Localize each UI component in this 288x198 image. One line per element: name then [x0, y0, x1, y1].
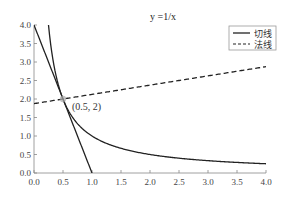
x-tick-label: 2.5 — [173, 177, 185, 187]
x-tick-label: 4.0 — [260, 177, 272, 187]
y-tick-label: 1.5 — [20, 113, 32, 123]
legend-label-normal: 法线 — [254, 39, 272, 50]
y-tick-label: 0.5 — [20, 150, 32, 160]
legend: 切线 法线 — [229, 26, 276, 50]
x-tick-label: 0.5 — [57, 177, 69, 187]
y-tick-label: 0.0 — [20, 168, 32, 178]
y-tick-label: 2.5 — [20, 76, 32, 86]
legend-label-tangent: 切线 — [254, 28, 272, 39]
y-tick-label: 4.0 — [20, 20, 32, 30]
x-tick-label: 3.5 — [231, 177, 243, 187]
chart-title: y =1/x — [150, 11, 176, 22]
point-marker — [60, 96, 66, 102]
x-tick-label: 2.0 — [144, 177, 156, 187]
x-tick-label: 1.5 — [115, 177, 127, 187]
point-annotation: (0.5, 2) — [72, 101, 101, 113]
x-tick-label: 3.0 — [202, 177, 214, 187]
y-tick-label: 2.0 — [20, 94, 32, 104]
x-tick-label: 1.0 — [86, 177, 98, 187]
x-tick-label: 0.0 — [28, 177, 40, 187]
y-tick-label: 3.0 — [20, 57, 32, 67]
series-line-normal — [34, 67, 266, 104]
y-tick-label: 3.5 — [20, 39, 32, 49]
y-tick-label: 1.0 — [20, 131, 32, 141]
chart-canvas: y =1/x 0.00.51.01.52.02.53.03.54.00.00.5… — [0, 0, 288, 198]
